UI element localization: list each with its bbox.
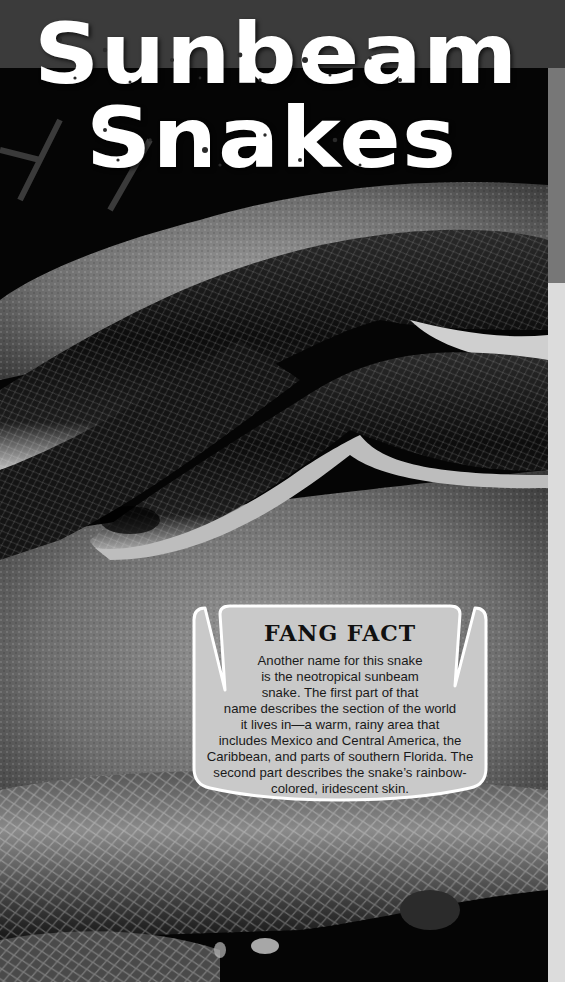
fang-fact-line: Caribbean, and parts of southern Florida…: [190, 749, 490, 764]
fang-fact-line: includes Mexico and Central America, the: [190, 733, 490, 748]
page-edge-dark: [548, 68, 565, 283]
fang-fact-line: Another name for this snake: [190, 653, 490, 668]
fang-fact-line: snake. The first part of that: [190, 685, 490, 700]
fang-fact-callout: FANG FACT Another name for this snake is…: [190, 598, 490, 810]
page-edge-light: [548, 283, 565, 982]
fang-fact-line: is the neotropical sunbeam: [190, 669, 490, 684]
fang-fact-line: colored, iridescent skin.: [190, 781, 490, 796]
book-page: Sunbeam Snakes FANG FACT Another name fo…: [0, 0, 565, 982]
page-title-line2: Snakes: [86, 96, 457, 180]
fang-fact-line: it lives in—a warm, rainy area that: [190, 717, 490, 732]
fang-fact-heading: FANG FACT: [190, 620, 490, 646]
page-title-line1: Sunbeam: [34, 12, 518, 96]
fang-fact-line: second part describes the snake’s rainbo…: [190, 765, 490, 780]
fang-fact-line: name describes the section of the world: [190, 701, 490, 716]
